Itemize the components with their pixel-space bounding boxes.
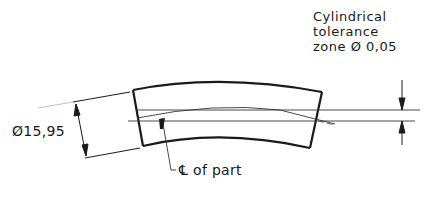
tolerance-zone-dimension xyxy=(399,80,405,145)
annotation-line-2: tolerance xyxy=(313,24,379,39)
extension-line-top xyxy=(73,92,130,102)
diameter-label: Ø15,95 xyxy=(12,123,65,139)
centerline-leader xyxy=(159,118,176,170)
tolerance-annotation: Cylindrical tolerance zone Ø 0,05 xyxy=(313,9,397,54)
leader-arrow-icon xyxy=(159,118,165,129)
technical-drawing: Ø15,95 ℄ of part Cylindrical tolerance z… xyxy=(0,0,440,198)
part-outline xyxy=(133,82,322,148)
extension-line-bottom xyxy=(85,148,140,158)
part-bottom-edge xyxy=(143,137,310,148)
arrow-down-icon xyxy=(399,98,405,110)
annotation-line-1: Cylindrical xyxy=(313,9,387,24)
annotation-line-3: zone Ø 0,05 xyxy=(313,39,397,54)
arrow-up-icon xyxy=(74,104,80,116)
arrow-down-icon xyxy=(82,144,88,156)
centerline-label: ℄ of part xyxy=(178,162,242,178)
arrow-up-icon xyxy=(399,121,405,133)
part-top-edge xyxy=(133,82,322,92)
